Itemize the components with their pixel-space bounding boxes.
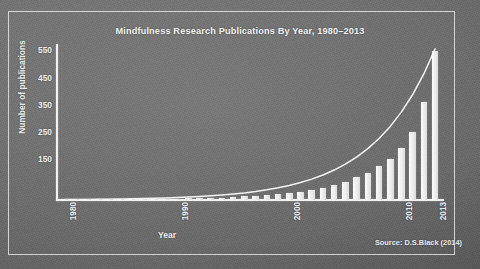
bar: [308, 190, 315, 200]
bar: [432, 51, 439, 200]
bar: [129, 199, 136, 200]
y-tick-label: 450: [38, 73, 52, 83]
bar: [275, 194, 282, 200]
bar: [353, 177, 360, 200]
bar: [241, 196, 248, 200]
plot-area: [57, 45, 443, 200]
x-tick-label: 2010: [405, 202, 414, 220]
bar: [163, 199, 170, 200]
x-tick-label: 2013: [439, 202, 448, 220]
y-tick-label: 250: [38, 127, 52, 137]
bar: [342, 182, 349, 200]
y-tick-label: 350: [38, 100, 52, 110]
bar: [73, 199, 80, 200]
bar: [398, 148, 405, 200]
y-tick-label: 550: [38, 45, 52, 55]
x-axis-title: Year: [57, 230, 277, 240]
bar: [230, 197, 237, 200]
bar: [118, 199, 125, 200]
bar: [409, 132, 416, 200]
bar: [219, 198, 226, 200]
y-axis-tick-labels: 150250350450550: [0, 0, 52, 269]
bar: [196, 198, 203, 200]
bar: [320, 188, 327, 201]
bar: [185, 198, 192, 200]
bar: [140, 199, 147, 200]
bar: [365, 173, 372, 200]
source-attribution: Source: D.S.Black (2014): [375, 238, 462, 247]
bar: [174, 199, 181, 200]
x-tick-label: 1980: [69, 202, 78, 220]
bar: [151, 199, 158, 200]
y-tick-label: 150: [38, 154, 52, 164]
bar: [387, 159, 394, 200]
bar: [297, 192, 304, 200]
bar: [421, 102, 428, 200]
x-tick-label: 2000: [293, 202, 302, 220]
bar: [376, 166, 383, 200]
bar: [264, 195, 271, 200]
bar: [207, 198, 214, 200]
bar: [84, 199, 91, 200]
bar: [62, 199, 69, 200]
bar: [286, 193, 293, 200]
bar: [106, 199, 113, 200]
bar: [252, 196, 259, 200]
chart-title: Mindfulness Research Publications By Yea…: [0, 26, 480, 36]
x-tick-label: 1990: [181, 202, 190, 220]
bar: [331, 185, 338, 200]
bar: [95, 199, 102, 200]
trend-curve: [57, 45, 443, 200]
